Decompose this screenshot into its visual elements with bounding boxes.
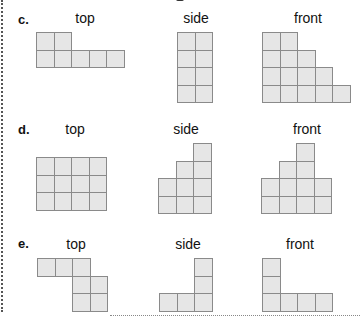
grid-square [296,161,315,180]
grid-square [261,178,280,197]
problem-e-side-label: side [175,236,201,252]
grid-square [280,293,299,312]
grid-square [194,293,213,312]
grid-square [90,276,109,295]
grid-square [296,196,315,215]
problem-c-side-label: side [183,10,209,26]
grid-square [71,50,90,69]
grid-square [71,157,90,176]
grid-square [36,175,55,194]
grid-square [72,293,91,312]
grid-square [89,192,108,211]
grid-square [280,85,299,104]
grid-square [158,178,177,197]
grid-square [55,258,74,277]
grid-square [54,192,73,211]
grid-square [54,50,73,69]
grid-square [194,258,213,277]
grid-square [54,175,73,194]
problem-e-front-label: front [286,236,314,252]
grid-square [315,293,334,312]
grid-square [315,67,334,86]
grid-square [176,178,195,197]
grid-square [193,161,212,180]
grid-square [297,293,316,312]
grid-square [279,178,298,197]
grid-square [177,293,196,312]
grid-square [195,85,214,104]
grid-square [159,293,178,312]
grid-square [36,192,55,211]
grid-square [176,161,195,180]
bottom-dotted-border [110,315,360,316]
grid-square [297,67,316,86]
grid-square [36,157,55,176]
grid-square [177,85,196,104]
grid-square [72,276,91,295]
grid-square [195,67,214,86]
grid-square [158,196,177,215]
grid-square [296,143,315,162]
grid-square [177,50,196,69]
problem-c-label: c. [18,12,29,27]
problem-d-label: d. [18,122,30,137]
problem-e-label: e. [18,236,29,251]
grid-square [72,258,91,277]
grid-square [36,50,55,69]
grid-square [90,293,109,312]
problem-d-side-label: side [173,121,199,137]
grid-square [262,276,281,295]
grid-square [314,178,333,197]
grid-square [262,85,281,104]
grid-square [106,50,125,69]
grid-square [89,157,108,176]
grid-square [279,161,298,180]
grid-square [54,157,73,176]
grid-square [280,67,299,86]
grid-square [297,85,316,104]
left-dotted-border [1,0,3,312]
cropped-glyph-top [176,0,184,1]
grid-square [314,196,333,215]
grid-square [279,196,298,215]
grid-square [54,32,73,51]
grid-square [262,67,281,86]
grid-square [193,178,212,197]
problem-c-top-label: top [75,10,94,26]
grid-square [195,32,214,51]
grid-square [315,85,334,104]
grid-square [176,196,195,215]
grid-square [193,196,212,215]
grid-square [193,143,212,162]
grid-square [71,175,90,194]
grid-square [280,50,299,69]
grid-square [195,50,214,69]
grid-square [89,175,108,194]
grid-square [261,196,280,215]
grid-square [280,32,299,51]
grid-square [262,50,281,69]
grid-square [297,50,316,69]
grid-square [36,32,55,51]
grid-square [177,32,196,51]
grid-square [262,258,281,277]
grid-square [71,192,90,211]
grid-square [89,50,108,69]
problem-e-top-label: top [66,236,85,252]
grid-square [262,293,281,312]
problem-d-top-label: top [65,121,84,137]
problem-c-front-label: front [294,10,322,26]
grid-square [332,85,351,104]
grid-square [296,178,315,197]
grid-square [177,67,196,86]
grid-square [194,276,213,295]
grid-square [37,258,56,277]
grid-square [262,32,281,51]
problem-d-front-label: front [293,121,321,137]
